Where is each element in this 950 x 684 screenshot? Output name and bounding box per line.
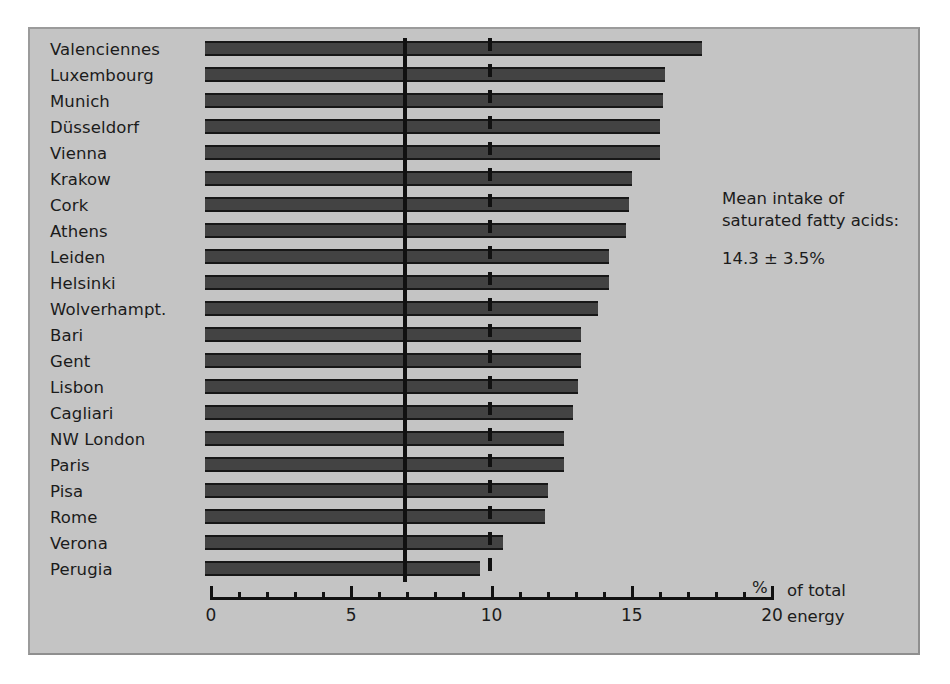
axis-tick-minor (687, 592, 690, 600)
axis-tick-major (350, 586, 353, 600)
axis-tick-minor (434, 592, 437, 600)
axis-tick-minor (575, 592, 578, 600)
figure: ValenciennesLuxembourgMunichDüsseldorfVi… (0, 0, 950, 684)
annotation-line-1: Mean intake of (722, 188, 912, 210)
axis-unit-line-1: of total (787, 578, 846, 604)
axis-tick-minor (462, 592, 465, 600)
axis-tick-minor (322, 592, 325, 600)
percent-sign: % (752, 578, 768, 597)
axis-tick-minor (266, 592, 269, 600)
axis-unit-line-2: energy (787, 604, 846, 630)
annotation-value: 14.3 ± 3.5% (722, 248, 912, 270)
axis-tick-label: 10 (472, 605, 512, 625)
axis-tick-label: 20 (752, 605, 792, 625)
annotation-line-2: saturated fatty acids: (722, 210, 912, 232)
axis-tick-minor (378, 592, 381, 600)
axis-tick-minor (715, 592, 718, 600)
axis-tick-minor (743, 592, 746, 600)
axis-tick-minor (294, 592, 297, 600)
axis-tick-minor (238, 592, 241, 600)
axis-tick-minor (406, 592, 409, 600)
axis-tick-minor (659, 592, 662, 600)
axis-tick-minor (547, 592, 550, 600)
axis-tick-label: 5 (331, 605, 371, 625)
mean-intake-annotation: Mean intake of saturated fatty acids: 14… (722, 188, 912, 270)
axis-tick-minor (519, 592, 522, 600)
axis-tick-label: 0 (191, 605, 231, 625)
axis-tick-major (491, 586, 494, 600)
axis-tick-minor (603, 592, 606, 600)
axis-tick-major (771, 586, 774, 600)
axis-tick-major (210, 586, 213, 600)
axis-tick-label: 15 (612, 605, 652, 625)
annotation-spacer (722, 232, 912, 248)
axis-unit-caption: of total energy (787, 578, 846, 630)
axis-tick-major (631, 586, 634, 600)
